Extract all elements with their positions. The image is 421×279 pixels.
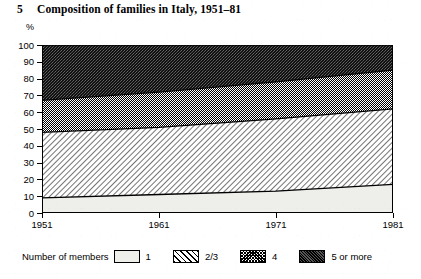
y-axis-unit-label: % (26, 22, 34, 32)
legend: Number of members 12/345 or more (22, 245, 372, 267)
x-tick-label-1971: 1971 (265, 220, 286, 230)
x-tick-label-1951: 1951 (31, 220, 52, 230)
legend-entry-2[interactable]: 4 (240, 250, 277, 263)
x-tick-label-1981: 1981 (382, 220, 403, 230)
legend-entry-1[interactable]: 2/3 (173, 250, 218, 263)
legend-entries: 12/345 or more (114, 250, 372, 263)
legend-swatch-two-three-members (173, 250, 199, 263)
y-tick-label-50: 50 (23, 125, 34, 135)
legend-title: Number of members (22, 251, 109, 262)
y-tick-label-10: 10 (23, 192, 34, 202)
y-tick-label-70: 70 (23, 91, 34, 101)
y-tick-label-80: 80 (23, 74, 34, 84)
legend-label-3: 5 or more (331, 251, 372, 262)
legend-entry-3[interactable]: 5 or more (299, 250, 372, 263)
legend-swatch-four-members (240, 250, 266, 263)
x-tick-mark-1971 (276, 213, 277, 218)
x-axis: 1951196119711981 (0, 213, 421, 237)
x-tick-mark-1961 (159, 213, 160, 218)
legend-label-1: 2/3 (205, 251, 218, 262)
x-tick-mark-1951 (42, 213, 43, 218)
y-axis: 1009080706050403020100 (0, 38, 42, 220)
x-tick-label-1961: 1961 (148, 220, 169, 230)
legend-label-0: 1 (146, 251, 151, 262)
y-tick-label-90: 90 (23, 57, 34, 67)
stacked-area-chart (42, 45, 393, 213)
figure-title-text: Composition of families in Italy, 1951–8… (37, 3, 241, 15)
y-tick-label-30: 30 (23, 158, 34, 168)
y-tick-label-100: 100 (18, 41, 34, 51)
legend-entry-0[interactable]: 1 (114, 250, 151, 263)
y-tick-label-40: 40 (23, 141, 34, 151)
y-tick-label-60: 60 (23, 108, 34, 118)
plot-area (42, 45, 393, 213)
legend-swatch-five-or-more-members (299, 250, 325, 263)
figure-number: 5 (17, 3, 37, 15)
legend-label-2: 4 (272, 251, 277, 262)
page-title: 5Composition of families in Italy, 1951–… (17, 3, 241, 15)
legend-swatch-one-member (114, 250, 140, 263)
x-tick-mark-1981 (393, 213, 394, 218)
y-tick-label-20: 20 (23, 175, 34, 185)
